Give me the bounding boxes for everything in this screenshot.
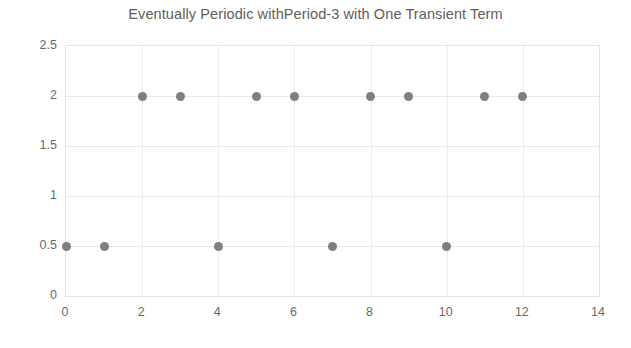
x-tick-label: 10 xyxy=(426,305,466,319)
data-point xyxy=(404,92,413,101)
y-tick-label: 0.5 xyxy=(5,238,57,252)
data-point xyxy=(366,92,375,101)
data-point xyxy=(252,92,261,101)
y-tick-label: 1.5 xyxy=(5,138,57,152)
data-point xyxy=(176,92,185,101)
chart-title: Eventually Periodic withPeriod-3 with On… xyxy=(0,6,631,22)
y-tick-label: 2 xyxy=(5,88,57,102)
gridline-vertical xyxy=(371,46,372,296)
gridline-vertical xyxy=(294,46,295,296)
x-tick-label: 12 xyxy=(502,305,542,319)
x-tick-label: 6 xyxy=(273,305,313,319)
plot-area xyxy=(65,45,600,297)
data-point xyxy=(214,242,223,251)
data-point xyxy=(442,242,451,251)
gridline-horizontal xyxy=(66,146,599,147)
gridline-vertical xyxy=(523,46,524,296)
y-axis-tick-labels: 00.511.522.5 xyxy=(0,45,57,297)
gridline-vertical xyxy=(447,46,448,296)
data-point xyxy=(138,92,147,101)
x-axis-tick-labels: 02468101214 xyxy=(65,305,600,325)
y-tick-label: 2.5 xyxy=(5,38,57,52)
x-tick-label: 8 xyxy=(350,305,390,319)
x-tick-label: 4 xyxy=(197,305,237,319)
x-tick-label: 2 xyxy=(121,305,161,319)
x-tick-label: 0 xyxy=(45,305,85,319)
data-point xyxy=(100,242,109,251)
y-tick-label: 0 xyxy=(5,288,57,302)
gridline-vertical xyxy=(218,46,219,296)
scatter-chart: Eventually Periodic withPeriod-3 with On… xyxy=(0,0,631,348)
data-point xyxy=(480,92,489,101)
gridline-vertical xyxy=(142,46,143,296)
data-point xyxy=(290,92,299,101)
data-point xyxy=(518,92,527,101)
x-tick-label: 14 xyxy=(578,305,618,319)
data-point xyxy=(62,242,71,251)
y-tick-label: 1 xyxy=(5,188,57,202)
gridline-horizontal xyxy=(66,196,599,197)
data-point xyxy=(328,242,337,251)
